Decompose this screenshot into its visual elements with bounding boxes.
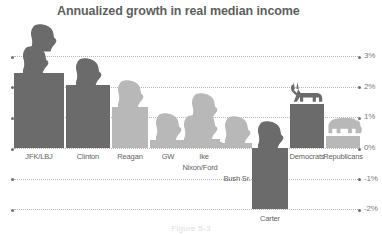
category-label-ike: Ike	[164, 152, 244, 161]
category-label-carter: Carter	[230, 214, 310, 223]
chart-figure: Annualized growth in real median income …	[0, 0, 382, 235]
category-label-republicans: Republicans	[303, 152, 382, 161]
figure-caption: Figure 5-3	[0, 224, 382, 233]
category-label-nixon-ford: Nixon/Ford	[160, 163, 240, 172]
category-label-layer: JFK/LBJClintonReaganGWIkeNixon/FordBush …	[0, 0, 382, 235]
category-label-bush-sr: Bush Sr.	[197, 174, 277, 183]
